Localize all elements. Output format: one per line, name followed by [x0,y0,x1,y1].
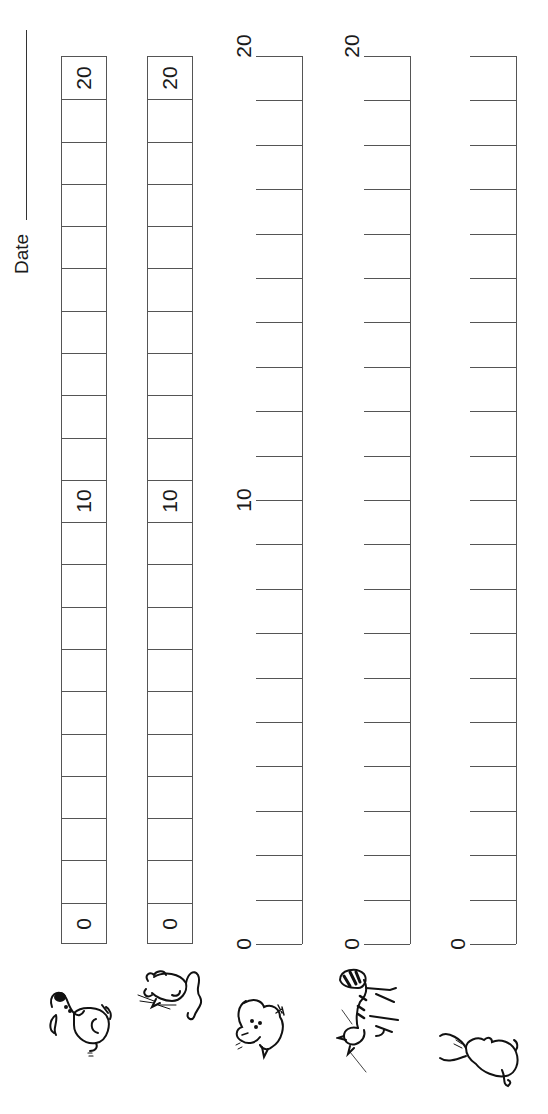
tick-mark[interactable] [256,456,302,457]
box-cell[interactable] [148,649,192,691]
tick-mark[interactable] [256,944,302,945]
tick-mark[interactable] [470,456,516,457]
tick-mark[interactable] [364,722,410,723]
tick-mark[interactable] [256,189,302,190]
tick-mark[interactable] [470,944,516,945]
box-cell[interactable] [62,99,106,141]
tick-mark[interactable] [470,189,516,190]
box-cell[interactable] [62,818,106,860]
tick-mark[interactable] [470,278,516,279]
tick-mark[interactable] [256,145,302,146]
tick-mark[interactable] [256,678,302,679]
tick-mark[interactable] [364,633,410,634]
tick-mark[interactable] [256,766,302,767]
box-cell[interactable]: 10 [62,480,106,522]
box-cell[interactable] [62,268,106,310]
tick-mark[interactable] [364,100,410,101]
box-cell[interactable] [62,649,106,691]
tick-mark[interactable] [364,811,410,812]
tick-mark[interactable] [364,234,410,235]
box-cell[interactable] [148,438,192,480]
tick-mark[interactable] [470,500,516,501]
tick-mark[interactable] [470,56,516,57]
tick-mark[interactable] [256,56,302,57]
box-cell[interactable] [148,734,192,776]
tick-mark[interactable] [364,278,410,279]
tick-mark[interactable] [364,900,410,901]
box-cell[interactable] [148,691,192,733]
tick-mark[interactable] [256,722,302,723]
tick-mark[interactable] [364,189,410,190]
tick-mark[interactable] [470,900,516,901]
tick-mark[interactable] [470,589,516,590]
tick-mark[interactable] [256,589,302,590]
tick-mark[interactable] [256,367,302,368]
tick-mark[interactable] [364,322,410,323]
box-cell[interactable] [148,818,192,860]
tick-mark[interactable] [470,411,516,412]
box-cell[interactable] [148,226,192,268]
box-cell[interactable] [62,522,106,564]
tick-mark[interactable] [256,234,302,235]
box-cell[interactable]: 20 [148,57,192,99]
tick-mark[interactable] [364,766,410,767]
box-cell[interactable] [62,734,106,776]
box-cell[interactable] [148,311,192,353]
box-cell[interactable] [148,564,192,606]
box-cell[interactable]: 20 [62,57,106,99]
tick-mark[interactable] [364,944,410,945]
box-cell[interactable] [148,522,192,564]
box-cell[interactable]: 10 [148,480,192,522]
box-cell[interactable] [62,226,106,268]
box-cell[interactable] [148,860,192,902]
tick-mark[interactable] [470,766,516,767]
tick-mark[interactable] [256,322,302,323]
box-cell[interactable] [148,353,192,395]
box-cell[interactable] [62,311,106,353]
tick-mark[interactable] [470,367,516,368]
box-cell[interactable] [148,607,192,649]
tick-mark[interactable] [470,100,516,101]
box-cell[interactable]: 0 [148,903,192,945]
tick-mark[interactable] [256,100,302,101]
tick-mark[interactable] [364,855,410,856]
tick-mark[interactable] [256,811,302,812]
tick-mark[interactable] [470,811,516,812]
box-cell[interactable] [148,142,192,184]
tick-mark[interactable] [364,56,410,57]
box-cell[interactable] [62,607,106,649]
box-cell[interactable] [62,184,106,226]
tick-mark[interactable] [470,544,516,545]
tick-mark[interactable] [364,678,410,679]
tick-mark[interactable] [364,145,410,146]
box-cell[interactable] [148,268,192,310]
tick-mark[interactable] [256,278,302,279]
tick-mark[interactable] [470,678,516,679]
tick-mark[interactable] [256,633,302,634]
tick-mark[interactable] [256,500,302,501]
tick-mark[interactable] [470,234,516,235]
box-cell[interactable] [148,184,192,226]
date-write-line[interactable] [26,30,27,220]
tick-mark[interactable] [364,544,410,545]
box-cell[interactable] [62,691,106,733]
box-cell[interactable] [148,776,192,818]
tick-mark[interactable] [256,900,302,901]
box-cell[interactable]: 0 [62,903,106,945]
tick-mark[interactable] [256,411,302,412]
box-cell[interactable] [62,776,106,818]
tick-mark[interactable] [364,500,410,501]
box-cell[interactable] [62,142,106,184]
tick-mark[interactable] [256,855,302,856]
tick-mark[interactable] [364,411,410,412]
box-cell[interactable] [62,860,106,902]
box-cell[interactable] [62,353,106,395]
box-cell[interactable] [62,395,106,437]
box-cell[interactable] [62,438,106,480]
tick-mark[interactable] [364,367,410,368]
tick-mark[interactable] [470,145,516,146]
tick-mark[interactable] [364,456,410,457]
tick-mark[interactable] [256,544,302,545]
tick-mark[interactable] [470,722,516,723]
box-cell[interactable] [148,99,192,141]
